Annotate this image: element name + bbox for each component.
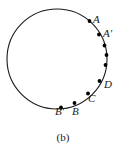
- point-label-d: D: [104, 79, 112, 90]
- point-label-c: C: [88, 93, 95, 104]
- marked-point-aprime: [97, 33, 101, 37]
- point-label-a: A: [93, 14, 100, 25]
- marked-point-a: [88, 19, 92, 23]
- point-label-aprime: A': [103, 28, 112, 39]
- figure-panel: AA'DCBB' (b): [0, 0, 126, 148]
- marked-point-p2: [105, 53, 109, 57]
- figure-caption: (b): [0, 131, 126, 143]
- marked-point-p3: [104, 63, 108, 67]
- point-label-b: B: [72, 106, 79, 117]
- marked-point-d: [98, 79, 102, 83]
- marked-points-group: [59, 19, 108, 109]
- marked-point-p1: [103, 44, 107, 48]
- circle-diagram: [0, 0, 126, 148]
- point-label-bprime: B': [55, 106, 64, 117]
